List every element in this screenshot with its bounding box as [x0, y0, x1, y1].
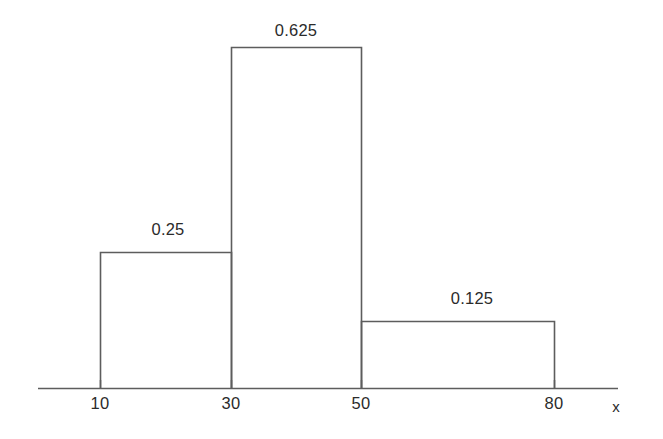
bar-value-label-2: 0.625 [275, 21, 317, 40]
histogram-bar-1 [101, 253, 232, 389]
histogram-bar-3 [362, 322, 555, 389]
x-tick-label-30: 30 [222, 394, 241, 413]
histogram-plot-area [0, 0, 663, 439]
histogram-figure: 0.25 0.625 0.125 10 30 50 80 x [0, 0, 663, 439]
x-tick-label-10: 10 [91, 394, 110, 413]
bar-value-label-3: 0.125 [451, 289, 493, 308]
x-tick-label-80: 80 [545, 394, 564, 413]
bar-value-label-1: 0.25 [152, 220, 185, 239]
histogram-bar-2 [232, 48, 362, 389]
x-tick-label-50: 50 [352, 394, 371, 413]
x-axis-label: x [612, 398, 620, 415]
